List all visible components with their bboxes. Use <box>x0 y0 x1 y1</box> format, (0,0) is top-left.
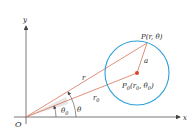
theta-label: θ <box>77 106 82 114</box>
y-axis-label: y <box>22 16 28 24</box>
theta-arc <box>68 92 76 117</box>
origin-label: O <box>15 120 22 129</box>
theta0-label: θ0 <box>61 107 69 116</box>
segment-r <box>26 43 147 117</box>
point-P0-label: P0(r0, θ0) <box>121 82 154 91</box>
center-point-P0 <box>135 71 139 75</box>
x-axis-label: x <box>183 114 187 122</box>
point-P-label: P(r, θ) <box>140 33 163 41</box>
segment-r0-label: r0 <box>93 94 100 103</box>
segment-a-label: a <box>144 57 148 65</box>
polar-circle-diagram: y x O P(r, θ) P0(r0, θ0) a r r0 θ θ0 <box>0 0 196 139</box>
